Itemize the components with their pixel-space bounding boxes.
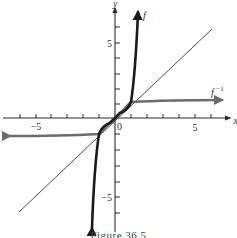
y-axis-label: y [112,0,118,9]
f-label: f [143,10,147,21]
y-tick-label-neg5: −5 [101,192,112,203]
figure-caption: Figure 36.5 [0,229,237,238]
f-inverse-base: f [211,87,215,98]
inverse-function-figure: y x 0 −5 5 5 −5 f f −1 [0,0,237,238]
origin-label: 0 [117,121,122,132]
f-inverse-label: f −1 [211,85,224,98]
f-inverse-superscript: −1 [216,85,224,93]
y-tick-label-5: 5 [107,38,112,49]
x-tick-label-neg5: −5 [31,121,42,132]
x-tick-label-5: 5 [193,122,198,133]
x-axis-label: x [233,115,237,126]
